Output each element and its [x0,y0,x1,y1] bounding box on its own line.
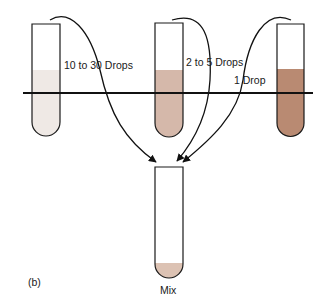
tube-3 [277,24,304,137]
tube-2 [155,23,183,137]
mix-label: Mix [160,285,176,296]
mix-tube [155,167,183,278]
diagram-canvas [0,0,326,306]
arrow-label-tube-2: 2 to 5 Drops [186,57,243,68]
tube-1 [32,24,60,136]
arrow-label-tube-1: 10 to 30 Drops [64,60,133,71]
arrow-tube-1-to-mix [50,17,156,162]
arrow-tube-3-to-mix [183,17,291,162]
panel-label: (b) [28,277,41,288]
arrow-label-tube-3: 1 Drop [234,75,266,86]
